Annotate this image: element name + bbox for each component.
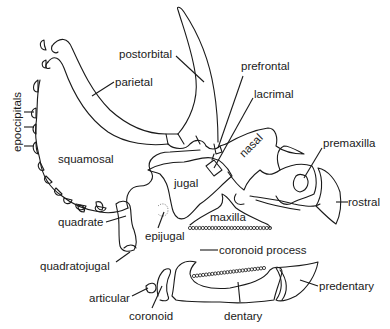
tooth bbox=[224, 226, 227, 229]
postorbital-bone bbox=[177, 7, 218, 142]
tooth bbox=[201, 226, 204, 229]
tooth bbox=[204, 226, 207, 229]
orbit-rim bbox=[166, 134, 200, 144]
premaxilla-bone bbox=[276, 164, 316, 204]
coronoid-bone bbox=[157, 269, 170, 301]
predentary-bone bbox=[276, 262, 318, 301]
tooth bbox=[230, 226, 233, 229]
prefrontal-bone bbox=[212, 144, 222, 160]
tooth bbox=[233, 226, 236, 229]
label-epijugal: epijugal bbox=[145, 230, 185, 242]
tooth bbox=[249, 226, 252, 229]
label-dentary: dentary bbox=[224, 310, 263, 322]
skull-diagram: postorbital parietal epoccipitals prefro… bbox=[0, 0, 390, 329]
tooth bbox=[259, 226, 262, 229]
maxilla-teeth bbox=[188, 226, 271, 229]
label-postorbital: postorbital bbox=[119, 48, 172, 60]
epoccipital-5 bbox=[33, 124, 36, 134]
orbit-floor bbox=[168, 140, 226, 149]
nasal-bone bbox=[226, 128, 304, 190]
leader-dentary bbox=[238, 282, 240, 302]
label-squamosal: squamosal bbox=[58, 153, 114, 165]
tooth bbox=[256, 226, 259, 229]
tooth bbox=[188, 226, 191, 229]
leader-premaxilla bbox=[304, 148, 322, 178]
leader-quadratojugal bbox=[116, 252, 130, 262]
leader-postorbital bbox=[176, 56, 204, 82]
tooth bbox=[214, 226, 217, 229]
tooth bbox=[198, 226, 201, 229]
tooth bbox=[246, 226, 249, 229]
lower-jaw bbox=[146, 261, 318, 303]
tooth bbox=[195, 226, 198, 229]
tooth bbox=[236, 226, 239, 229]
rostral-bone bbox=[316, 168, 341, 224]
leader-articular bbox=[132, 288, 148, 296]
tooth bbox=[227, 226, 230, 229]
label-coronoid-process: coronoid process bbox=[219, 244, 307, 256]
label-quadratojugal: quadratojugal bbox=[40, 260, 110, 272]
labels: postorbital parietal epoccipitals prefro… bbox=[11, 48, 380, 322]
postorbital-horn bbox=[166, 7, 218, 144]
maxilla-spur bbox=[234, 194, 244, 204]
label-epoccipitals: epoccipitals bbox=[11, 92, 23, 152]
label-prefrontal: prefrontal bbox=[241, 60, 290, 72]
epoccipital-4 bbox=[32, 108, 37, 118]
leader-parietal bbox=[92, 82, 114, 96]
tooth bbox=[265, 226, 268, 229]
label-coronoid: coronoid bbox=[129, 310, 173, 322]
epoccipitals bbox=[32, 40, 107, 212]
label-articular: articular bbox=[89, 292, 130, 304]
tooth bbox=[211, 226, 214, 229]
tooth bbox=[252, 226, 255, 229]
label-parietal: parietal bbox=[115, 76, 153, 88]
tooth bbox=[220, 226, 223, 229]
tooth bbox=[240, 226, 243, 229]
quadratojugal-bone bbox=[124, 245, 136, 248]
tooth bbox=[192, 226, 195, 229]
leader-quadrate bbox=[106, 216, 126, 222]
dentary-teeth bbox=[192, 266, 265, 277]
leader-predentary bbox=[300, 280, 318, 286]
label-lacrimal: lacrimal bbox=[254, 88, 294, 100]
premaxilla-lower bbox=[250, 196, 320, 210]
frill-crest bbox=[46, 46, 58, 69]
epoccipital-1 bbox=[40, 40, 46, 50]
epoccipital-3 bbox=[34, 80, 39, 92]
label-premaxilla: premaxilla bbox=[323, 137, 376, 149]
squamosal-margin bbox=[35, 80, 128, 213]
tooth bbox=[217, 226, 220, 229]
label-maxilla: maxilla bbox=[210, 211, 246, 223]
tooth bbox=[208, 226, 211, 229]
label-quadrate: quadrate bbox=[58, 216, 103, 228]
label-rostral: rostral bbox=[348, 196, 380, 208]
tooth bbox=[262, 226, 265, 229]
label-jugal: jugal bbox=[173, 177, 198, 189]
tooth bbox=[243, 226, 246, 229]
label-predentary: predentary bbox=[319, 280, 374, 292]
